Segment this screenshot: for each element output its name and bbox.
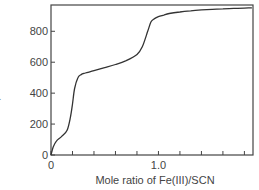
y-tick-label: 800	[30, 25, 48, 37]
y-tick-label: 200	[30, 118, 48, 130]
titration-curve	[51, 8, 252, 155]
plot-frame	[51, 5, 253, 155]
y-axis-label-unit: , mV	[0, 74, 2, 101]
y-tick-label: 600	[30, 56, 48, 68]
x-axis-ticks: 01.0	[48, 151, 244, 171]
x-axis-label: Mole ratio of Fe(III)/SCN	[60, 174, 250, 186]
y-axis-label: E, mV	[0, 79, 47, 109]
x-tick-label: 1.0	[151, 159, 166, 171]
y-tick-label: 0	[42, 149, 48, 161]
y-axis-label-symbol: E	[0, 101, 2, 109]
x-tick-label: 0	[48, 159, 54, 171]
